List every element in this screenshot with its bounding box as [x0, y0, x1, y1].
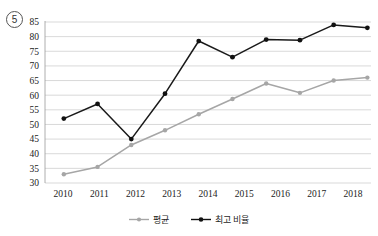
chart-legend: 평균 최고 비율: [0, 207, 378, 231]
y-tick-label: 80: [30, 32, 40, 42]
data-point-max-ratio: [129, 137, 134, 142]
y-tick-label: 70: [30, 61, 40, 71]
x-tick-label-2017: 2017: [307, 189, 326, 199]
y-tick-label: 65: [30, 76, 40, 86]
y-tick-label: 60: [30, 91, 40, 101]
y-tick-label: 45: [30, 134, 40, 144]
series-markers-group: [61, 23, 369, 177]
data-point-average: [197, 112, 201, 116]
y-tick-label: 50: [30, 120, 40, 130]
data-point-average: [331, 78, 335, 82]
y-tick-label: 30: [30, 178, 40, 188]
series-line-average: [64, 78, 368, 175]
data-point-average: [62, 172, 66, 176]
data-point-max-ratio: [95, 102, 100, 107]
data-point-average: [129, 143, 133, 147]
chart-svg: 303540455055606570758085 201020112012201…: [0, 0, 378, 205]
legend-marker-max-ratio-icon: [191, 215, 211, 224]
legend-label-average: 평균: [153, 213, 169, 226]
x-tick-label-2015: 2015: [235, 189, 254, 199]
data-point-max-ratio: [163, 91, 168, 96]
data-point-average: [298, 91, 302, 95]
x-tick-label-2018: 2018: [343, 189, 362, 199]
x-tick-label-2011: 2011: [90, 189, 109, 199]
y-tick-label: 40: [30, 149, 40, 159]
data-point-average: [95, 165, 99, 169]
series-line-max-ratio: [64, 25, 368, 139]
data-point-average: [230, 97, 234, 101]
data-point-average: [264, 81, 268, 85]
x-tick-label-2010: 2010: [54, 189, 73, 199]
data-point-max-ratio: [331, 23, 336, 28]
data-point-max-ratio: [196, 39, 201, 44]
x-tick-label-2016: 2016: [271, 189, 290, 199]
series-lines-group: [64, 25, 368, 174]
y-tick-label: 55: [30, 105, 40, 115]
data-point-max-ratio: [365, 25, 370, 30]
y-tick-label: 85: [30, 17, 40, 27]
chart-figure: 5 303540455055606570758085 2010201120122…: [0, 0, 378, 236]
y-tick-label: 35: [30, 164, 40, 174]
data-point-max-ratio: [264, 37, 269, 42]
legend-item-average: 평균: [129, 213, 169, 226]
line-chart-plot: 303540455055606570758085 201020112012201…: [0, 0, 378, 205]
legend-label-max-ratio: 최고 비율: [215, 213, 250, 226]
x-axis-tick-labels: 201020112012201320142015201620172018: [54, 189, 363, 199]
x-tick-label-2014: 2014: [199, 189, 218, 199]
y-tick-label: 75: [30, 47, 40, 57]
data-point-max-ratio: [61, 116, 66, 121]
data-point-average: [365, 75, 369, 79]
x-tick-label-2013: 2013: [162, 189, 181, 199]
legend-item-max-ratio: 최고 비율: [191, 213, 250, 226]
legend-marker-average-icon: [129, 215, 149, 224]
data-point-average: [163, 128, 167, 132]
y-axis-tick-labels: 303540455055606570758085: [30, 17, 40, 188]
data-point-max-ratio: [298, 38, 303, 43]
x-tick-label-2012: 2012: [126, 189, 145, 199]
data-point-max-ratio: [230, 55, 235, 60]
